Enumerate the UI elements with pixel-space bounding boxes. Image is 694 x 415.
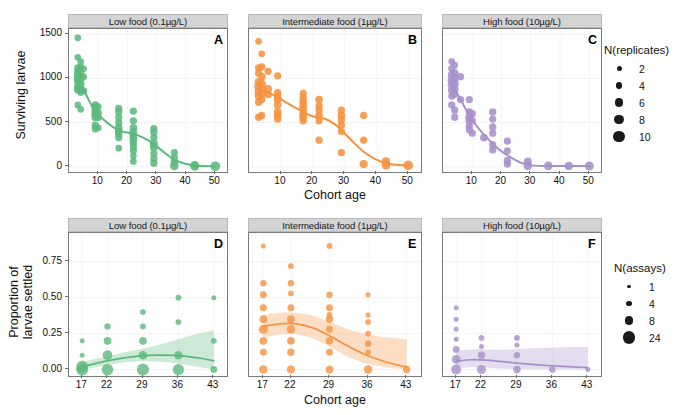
legend-replicates-key-icon [604, 66, 634, 71]
x-tick-label: 17 [441, 379, 469, 390]
data-point [287, 304, 294, 311]
legend-dot-icon [616, 82, 623, 89]
x-tick-mark [559, 171, 560, 174]
y-tick-label: 500 [20, 116, 62, 127]
legend-replicates: N(replicates) 246810 [604, 44, 669, 145]
data-point [274, 101, 282, 109]
data-point [315, 137, 322, 144]
data-point [514, 335, 520, 341]
data-point [300, 117, 307, 124]
strip-high-food-top: High food (10µg/L) [442, 14, 602, 28]
data-point [338, 149, 345, 156]
legend-assays-key-icon [614, 331, 644, 344]
panel-letter-E: E [408, 237, 416, 251]
data-points [254, 38, 413, 170]
x-tick-label: 20 [487, 175, 515, 186]
data-point [211, 338, 217, 344]
legend-replicates-item: 4 [604, 77, 669, 94]
figure-root: Surviving larvae Low food (0.1µg/L) Inte… [0, 0, 694, 415]
data-point [175, 295, 181, 301]
y-tick-label: 0.75 [20, 255, 62, 266]
x-tick-mark [588, 171, 589, 174]
data-point [364, 365, 372, 373]
panel-letter-A: A [214, 33, 223, 47]
data-point [452, 355, 461, 364]
x-tick-mark [290, 375, 291, 378]
data-point [513, 366, 520, 373]
data-point [288, 280, 294, 286]
x-tick-mark [516, 375, 517, 378]
data-point [479, 335, 485, 341]
x-tick-label: 30 [330, 175, 358, 186]
x-tick-label: 40 [545, 175, 573, 186]
x-tick-mark [367, 375, 368, 378]
strip-low-food-top: Low food (0.1µg/L) [68, 14, 228, 28]
data-point [103, 350, 113, 360]
legend-replicates-key-icon [604, 82, 634, 89]
legend-dot-icon [626, 301, 632, 307]
confidence-band [82, 330, 214, 369]
x-tick-label: 20 [113, 175, 141, 186]
x-tick-mark [343, 171, 344, 174]
x-tick-label: 36 [537, 379, 565, 390]
y-tick-mark [65, 77, 68, 78]
strip-high-food-bottom: High food (10µg/L) [442, 218, 602, 232]
data-point [115, 145, 122, 152]
x-tick-label: 10 [266, 175, 294, 186]
data-point [259, 315, 267, 323]
data-point [130, 107, 137, 114]
y-tick-mark [65, 121, 68, 122]
legend-assays-key-icon [614, 301, 644, 307]
strip-low-food-bottom: Low food (0.1µg/L) [68, 218, 228, 232]
panel-F-plot [442, 232, 602, 377]
data-point [457, 73, 464, 80]
legend-assays-key-icon [614, 285, 644, 288]
data-point [80, 338, 85, 343]
x-tick-mark [311, 171, 312, 174]
data-point [258, 96, 265, 103]
x-tick-mark [405, 375, 406, 378]
data-point [504, 137, 511, 144]
legend-replicates-item: 10 [604, 128, 669, 145]
data-point [258, 63, 265, 70]
data-point [95, 125, 102, 132]
data-point [327, 243, 333, 249]
data-point [287, 325, 295, 333]
x-tick-mark [97, 171, 98, 174]
legend-dot-icon [615, 98, 623, 106]
y-tick-mark [65, 368, 68, 369]
data-point [287, 365, 295, 373]
panel-A-plot [68, 28, 228, 173]
data-point [95, 103, 102, 110]
x-tick-label: 22 [93, 379, 121, 390]
legend-replicates-key-icon [604, 115, 634, 125]
x-tick-label: 10 [457, 175, 485, 186]
data-point [102, 364, 114, 376]
data-point [326, 337, 333, 344]
plot-canvas [249, 233, 421, 376]
data-point [287, 315, 295, 323]
data-point [451, 107, 458, 114]
x-tick-mark [471, 171, 472, 174]
data-point [258, 50, 265, 57]
y-tick-label: 0 [20, 160, 62, 171]
panel-D-plot [68, 232, 228, 377]
plot-canvas [443, 29, 601, 172]
x-tick-label: 36 [163, 379, 191, 390]
data-point [74, 34, 81, 41]
data-point [77, 106, 84, 113]
legend-replicates-label: 10 [639, 131, 651, 143]
plot-canvas [443, 233, 601, 376]
data-point [326, 326, 333, 333]
legend-assays-label: 8 [649, 315, 655, 327]
data-point [326, 366, 334, 374]
panel-letter-B: B [408, 33, 417, 47]
legend-assays-key-icon [614, 316, 644, 324]
x-tick-label: 29 [128, 379, 156, 390]
y-tick-mark [65, 260, 68, 261]
panel-E-plot [248, 232, 422, 377]
bottom-y-axis-title-line1: Proportion of [7, 247, 21, 357]
x-tick-label: 29 [502, 379, 530, 390]
legend-assays-label: 1 [649, 281, 655, 293]
data-points [74, 34, 220, 171]
